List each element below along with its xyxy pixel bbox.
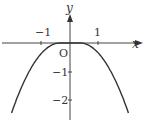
y-axis-label: y	[65, 1, 73, 15]
x-tick-label-1: 1	[94, 26, 101, 39]
y-tick-label-neg2: −2	[52, 94, 68, 107]
function-graph: x y O −1 1 −1 −2	[0, 0, 155, 123]
x-tick-label-neg1: −1	[35, 26, 51, 39]
x-axis-label: x	[132, 37, 139, 51]
y-tick-label-neg1: −1	[52, 66, 68, 79]
graph-canvas: x y O −1 1 −1 −2	[0, 0, 155, 123]
y-axis-arrow-icon	[67, 14, 73, 22]
origin-label: O	[59, 47, 68, 60]
